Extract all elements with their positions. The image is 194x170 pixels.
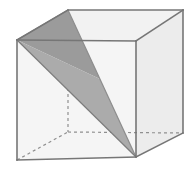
edge-front-top <box>17 40 136 41</box>
cube-figure-container: Line drawing of a cube in oblique projec… <box>0 0 194 170</box>
cube-diagram <box>0 0 194 170</box>
